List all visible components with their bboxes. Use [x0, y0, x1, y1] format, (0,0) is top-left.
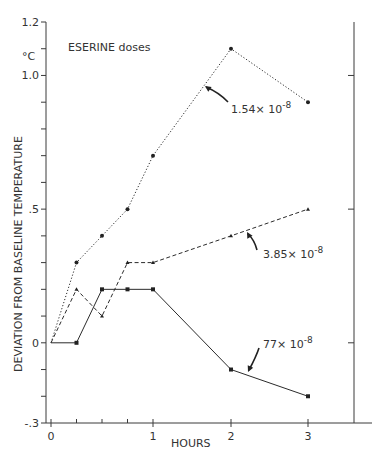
series-label-exponent: -8: [314, 245, 323, 255]
x-tick-label: 1: [150, 430, 157, 443]
x-axis-label: HOURS: [171, 437, 211, 450]
series-line-dotted: [51, 49, 308, 343]
data-point-circle: [151, 154, 155, 158]
y-tick-label: 1.0: [22, 69, 40, 82]
data-point-circle: [306, 100, 310, 104]
data-point-circle: [126, 207, 130, 211]
y-tick-label: .5: [29, 203, 40, 216]
data-point-circle: [229, 47, 233, 51]
axes: [46, 22, 372, 423]
y-axis-label: DEVIATION FROM BASELINE TEMPERATURE: [12, 136, 25, 372]
series-line-dashed: [51, 209, 308, 343]
series-label-exponent: -8: [282, 100, 291, 110]
data-point-circle: [100, 234, 104, 238]
x-tick-label: 3: [305, 430, 312, 443]
data-point-square: [229, 368, 233, 372]
series-label: 1.54× 10-8: [231, 100, 291, 116]
data-point-triangle: [229, 234, 233, 238]
x-tick-label: 2: [228, 430, 235, 443]
series-label-main: 77× 10: [263, 338, 304, 351]
y-tick-label: 1.2: [22, 16, 40, 29]
series-label-exponent: -8: [304, 335, 313, 345]
annotation-title: ESERINE doses: [68, 41, 151, 54]
y-tick-label: -.3: [25, 417, 39, 430]
annotations: 1.54× 10-83.85× 10-877× 10-8: [205, 86, 323, 372]
data-point-square: [100, 287, 104, 291]
data-point-square: [126, 287, 130, 291]
data-point-triangle: [75, 287, 79, 291]
x-tick-label: 0: [48, 430, 55, 443]
series-label: 77× 10-8: [263, 335, 313, 351]
series-label: 3.85× 10-8: [263, 245, 323, 261]
data-point-square: [151, 287, 155, 291]
line-chart: 1.21.0.50-.30123 °C ESERINE doses HOURS …: [0, 0, 375, 463]
data-point-square: [75, 341, 79, 345]
series-label-main: 3.85× 10: [263, 248, 314, 261]
y-tick-label: 0: [32, 337, 39, 350]
data-point-circle: [75, 261, 79, 265]
series-label-main: 1.54× 10: [231, 103, 282, 116]
data-point-triangle: [306, 207, 310, 211]
ticks: 1.21.0.50-.30123: [22, 16, 355, 443]
data-point-square: [306, 394, 310, 398]
y-unit-label: °C: [22, 50, 36, 63]
